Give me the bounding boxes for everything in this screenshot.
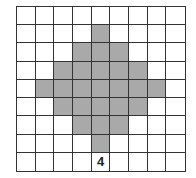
shaded-cell xyxy=(110,62,129,80)
grid-cell xyxy=(148,98,167,116)
grid-cell xyxy=(17,25,36,43)
grid-cell xyxy=(17,43,36,61)
shaded-cell xyxy=(110,80,129,98)
grid-cell xyxy=(166,25,185,43)
grid-cell xyxy=(17,98,36,116)
grid-cell xyxy=(54,43,73,61)
cell-label: 4 xyxy=(97,154,104,169)
grid-cell xyxy=(166,98,185,116)
shaded-cell xyxy=(92,98,111,116)
grid-cell xyxy=(54,7,73,25)
grid-cell xyxy=(36,25,55,43)
grid-cell xyxy=(36,7,55,25)
grid-cell xyxy=(129,43,148,61)
shaded-cell xyxy=(92,135,111,153)
shaded-cell xyxy=(129,98,148,116)
grid-cell xyxy=(17,7,36,25)
grid-cell xyxy=(129,153,148,171)
grid-cell xyxy=(148,153,167,171)
grid-cell xyxy=(129,7,148,25)
grid-cell xyxy=(36,153,55,171)
grid-cell xyxy=(148,135,167,153)
grid-cell xyxy=(166,62,185,80)
grid-cell xyxy=(129,135,148,153)
shaded-cell xyxy=(54,98,73,116)
grid-cell xyxy=(166,135,185,153)
grid-cell xyxy=(36,98,55,116)
grid-cell xyxy=(73,135,92,153)
shaded-grid-figure: 4 xyxy=(16,6,186,172)
grid-cell xyxy=(73,153,92,171)
shaded-cell xyxy=(148,80,167,98)
shaded-cell xyxy=(92,25,111,43)
shaded-cell xyxy=(73,98,92,116)
grid-cell xyxy=(110,7,129,25)
shaded-cell xyxy=(129,80,148,98)
shaded-cell xyxy=(73,80,92,98)
grid-cell xyxy=(54,153,73,171)
grid-cell xyxy=(148,116,167,134)
grid-cell xyxy=(17,153,36,171)
grid-cell xyxy=(54,25,73,43)
shaded-cell xyxy=(110,43,129,61)
grid-cell xyxy=(17,116,36,134)
grid-cell xyxy=(73,25,92,43)
grid-cell xyxy=(36,43,55,61)
grid-cell xyxy=(166,153,185,171)
grid-cell: 4 xyxy=(92,153,111,171)
grid-cell xyxy=(148,25,167,43)
grid-cell xyxy=(166,7,185,25)
grid-cell xyxy=(54,135,73,153)
grid-cell xyxy=(73,7,92,25)
grid-cell xyxy=(148,7,167,25)
shaded-cell xyxy=(92,62,111,80)
shaded-cell xyxy=(36,80,55,98)
shaded-cell xyxy=(54,62,73,80)
grid-cell xyxy=(129,116,148,134)
grid-cell xyxy=(17,135,36,153)
grid-cell xyxy=(17,62,36,80)
grid-cell xyxy=(17,80,36,98)
grid-cell xyxy=(110,25,129,43)
grid-cell xyxy=(92,7,111,25)
shaded-cell xyxy=(73,62,92,80)
shaded-cell xyxy=(92,43,111,61)
grid-cell xyxy=(129,25,148,43)
shaded-cell xyxy=(110,98,129,116)
grid-cell xyxy=(110,135,129,153)
grid-cell xyxy=(36,116,55,134)
grid-cell xyxy=(148,43,167,61)
shaded-cell xyxy=(73,43,92,61)
grid-cell xyxy=(36,62,55,80)
grid-cell xyxy=(36,135,55,153)
grid-cell xyxy=(148,62,167,80)
shaded-cell xyxy=(110,116,129,134)
shaded-cell xyxy=(92,116,111,134)
grid-cell xyxy=(166,80,185,98)
shaded-cell xyxy=(73,116,92,134)
shaded-cell xyxy=(92,80,111,98)
grid-cell xyxy=(54,116,73,134)
grid-cell xyxy=(110,153,129,171)
grid-cell xyxy=(166,43,185,61)
shaded-cell xyxy=(54,80,73,98)
shaded-cell xyxy=(129,62,148,80)
grid-cell xyxy=(166,116,185,134)
